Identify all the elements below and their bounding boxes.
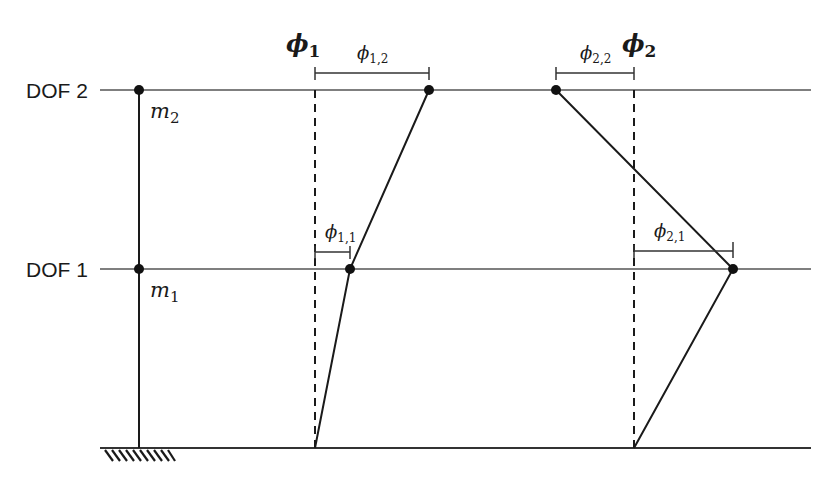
mode2-node-1 xyxy=(728,264,738,274)
dof2-label: DOF 2 xyxy=(26,79,88,102)
mode2-dim-2-2 xyxy=(556,67,634,80)
mode2-node-2 xyxy=(551,85,561,95)
phi-2-2-label: ϕ2,2 xyxy=(580,42,611,66)
mode-1: ϕ1 ϕ1,2 ϕ1,1 xyxy=(286,29,434,448)
mode1-node-2 xyxy=(424,85,434,95)
mode-shape-diagram: DOF 2 DOF 1 m2 m1 ϕ1 ϕ1,2 ϕ1,1 ϕ2 xyxy=(0,0,837,489)
dof1-label: DOF 1 xyxy=(26,258,88,281)
fixed-support-hatch xyxy=(105,450,175,461)
mode1-title: ϕ1 xyxy=(286,29,320,61)
mode1-node-1 xyxy=(345,264,355,274)
mode1-dim-1-1 xyxy=(315,246,350,259)
mode-2: ϕ2 ϕ2,2 ϕ2,1 xyxy=(551,29,738,448)
mass-node-1 xyxy=(134,264,144,274)
floor-lines xyxy=(100,90,811,448)
mass-label-m2: m2 xyxy=(150,99,179,127)
mode2-dim-2-1 xyxy=(634,242,733,258)
phi-1-1-label: ϕ1,1 xyxy=(325,221,356,245)
mode2-title: ϕ2 xyxy=(622,29,656,61)
mass-node-2 xyxy=(134,85,144,95)
phi-2-1-label: ϕ2,1 xyxy=(654,220,685,244)
mass-label-m1: m1 xyxy=(150,278,179,306)
phi-1-2-label: ϕ1,2 xyxy=(357,42,388,66)
mode1-dim-1-2 xyxy=(315,67,429,80)
